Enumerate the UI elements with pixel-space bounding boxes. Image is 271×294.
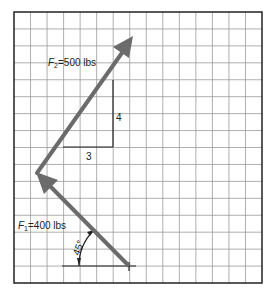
f2-label: F2=500 lbs	[48, 57, 96, 69]
force-vector-diagram: 4 3 45° F2=500 lbs F1=400 lbs	[0, 0, 271, 294]
angle-label: 45°	[71, 239, 87, 257]
f1-label: F1=400 lbs	[18, 220, 66, 232]
slope-run-label: 3	[86, 151, 92, 162]
grid	[14, 12, 262, 283]
slope-rise-label: 4	[116, 112, 122, 123]
